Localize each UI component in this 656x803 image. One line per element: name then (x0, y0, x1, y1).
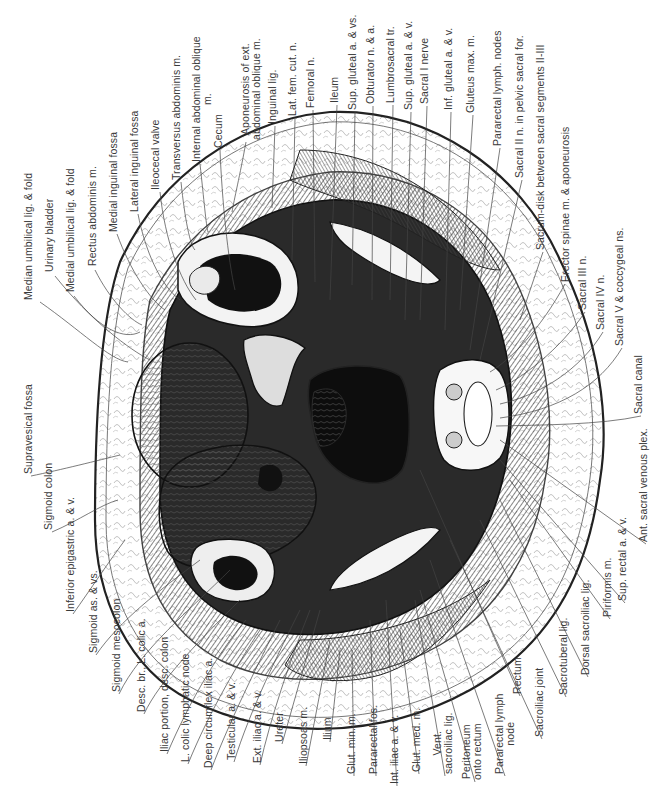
label-erector-spinae: Erector spinae m. & aponeurosis (560, 127, 571, 282)
label-sacroiliac-joint: Sacroiliac joint (534, 668, 545, 737)
label-sacral-iv-n: Sacral IV n. (595, 275, 606, 330)
label-sacral-iii-n: Sacral III n. (577, 256, 588, 310)
label-ileum: Ileum (329, 77, 340, 103)
label-inguinal-lig: Inguinal lig. (267, 70, 278, 124)
label-lumbrosacral-tr: Lumbrosacral tr. (385, 26, 396, 103)
label-sacral-ii-n: Sacral II n. in pelvic sacral for. (514, 35, 525, 178)
pelvis-cross-section-figure: Median umbilical lig. & foldUrinary blad… (0, 0, 656, 803)
label-gluteus-max: Gluteus max. m. (465, 35, 476, 113)
label-sigmoid-colon: Sigmoid colon (43, 463, 54, 530)
label-sacral-i-nerve: Sacral I nerve (419, 38, 430, 104)
label-sacral-canal: Sacral canal (633, 355, 644, 414)
label-median-umbilical-lig: Median umbilical lig. & fold (23, 173, 34, 300)
label-lat-fem-cut-n: Lat. fem. cut. n. (287, 42, 298, 116)
label-sacrum-disk: Sacrum-disk between sacral segments II-I… (535, 44, 546, 250)
label-inferior-epigastric: Inferior epigastric a. & v. (65, 497, 76, 612)
label-inf-gluteal-av: Inf. gluteal a. & v. (443, 28, 454, 110)
label-ext-iliac-av: Ext. iliac a. & v. (252, 690, 263, 763)
label-glut-med: Glut. med. m. (411, 708, 422, 772)
label-aponeurosis-ext-oblique: Aponeurosis of ext. abdominal oblique m. (240, 38, 262, 140)
label-transversus-abdominis: Transversus abdominis m. (171, 55, 182, 180)
label-medial-inguinal-fossa: Medial inguinal fossa (108, 132, 119, 232)
label-glut-min: Glut. min. m. (346, 713, 357, 774)
label-desc-br-l-colic: Desc. br., L. colic a. (136, 618, 147, 712)
label-sup-gluteal-vs: Sup. gluteal a. & vs. (347, 15, 358, 111)
label-testicular-av: Testicular a. & v. (226, 682, 237, 760)
label-sacral-v-coccygeal: Sacral V & coccygeal ns. (614, 227, 625, 346)
label-pararectal-fos: Pararectal fos. (368, 705, 379, 774)
label-rectus-abdominis: Rectus abdominis m. (87, 166, 98, 266)
label-int-iliac-av: Int. iliac a. & v. (389, 715, 400, 784)
label-ant-sacral-venous-plex: Ant. sacral venous plex. (638, 428, 649, 542)
label-obturator-n-a: Obturator n. & a. (365, 25, 376, 104)
label-deep-circumflex-iliac: Deep circumflex iliac a. (203, 658, 214, 768)
label-supravesical-fossa: Supravesical fossa (23, 384, 34, 474)
label-pararectal-lymph-node: Pararectal lymph node (494, 694, 516, 774)
label-peritoneum-onto-rectum: Peritoneum onto rectum (461, 723, 483, 780)
label-piriformis: Piriformis m. (602, 557, 613, 617)
label-iliopsoas: Iliopsoas m. (298, 707, 309, 764)
label-sigmoid-as-vs: Sigmoid as. & vs. (88, 570, 99, 653)
label-internal-abdominal-oblique: Internal abdominal oblique m. (191, 36, 213, 162)
label-lateral-inguinal-fossa: Lateral inguinal fossa (129, 111, 140, 212)
label-femoral-n: Femoral n. (305, 57, 316, 108)
label-vent-sacroiliac-lig: Vent. sacroiliac lig. (432, 712, 454, 774)
label-sigmoid-mesocolon: Sigmoid mesocolon (111, 599, 122, 692)
label-ileocecal-valve: Ileocecal valve (150, 120, 161, 190)
label-ureter: Ureter (274, 712, 285, 742)
label-dorsal-sacroiliac-lig: Dorsal sacroiliac lig. (580, 579, 591, 675)
label-ilium: Ilium (322, 717, 333, 740)
label-rectum: Rectum (512, 657, 523, 694)
label-sacrotuberal-lig: Sacrotuberal lig. (558, 617, 569, 695)
label-medial-umbilical-lig: Medial umbilical lig. & fold (65, 168, 76, 292)
label-sup-gluteal-av: Sup. gluteal a. & v. (403, 21, 414, 110)
label-l-colic-lymphatic-node: L. colic lymphatic node (180, 653, 191, 762)
label-urinary-bladder: Urinary bladder (44, 199, 55, 272)
label-iliac-portion-desc-colon: Iliac portion, desc. colon (159, 637, 170, 752)
label-pararectal-lymph-nodes: Pararectal lymph. nodes (492, 30, 503, 146)
label-cecum: Cecum (213, 114, 224, 148)
label-sup-rectal-av: Sup. rectal a. & v. (617, 517, 628, 601)
